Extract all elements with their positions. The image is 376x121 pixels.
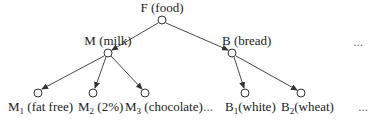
node-m1	[34, 89, 42, 97]
label-m3: M3 (chocolate)	[125, 99, 203, 116]
label-b1: B1(white)	[225, 99, 276, 116]
ellipsis-level2-end: ...	[358, 99, 368, 114]
node-m3	[141, 89, 149, 97]
label-f: F (food)	[141, 0, 184, 15]
node-b2	[297, 89, 305, 97]
edge-f-b	[166, 23, 228, 50]
node-f	[158, 16, 166, 24]
label-m1: M1 (fat free)	[8, 99, 73, 116]
label-m2: M2 (2%)	[78, 99, 123, 116]
edge-b-b1	[234, 57, 244, 88]
edge-m-m3	[111, 56, 142, 89]
node-m2	[89, 89, 97, 97]
edge-b-b2	[236, 56, 297, 90]
edge-m-m2	[95, 57, 106, 88]
label-b: B (bread)	[222, 33, 271, 48]
nodes	[34, 16, 305, 97]
label-b2: B2(wheat)	[281, 99, 334, 116]
label-m: M (milk)	[84, 33, 131, 48]
ellipsis-level1: ...	[353, 34, 363, 49]
ellipsis-level2-middle: ...	[203, 99, 213, 114]
node-m	[104, 49, 112, 57]
edge-m-m1	[42, 56, 104, 89]
node-b	[228, 49, 236, 57]
node-b1	[241, 89, 249, 97]
tree-diagram: F (food) M (milk) B (bread) M1 (fat free…	[0, 0, 376, 121]
